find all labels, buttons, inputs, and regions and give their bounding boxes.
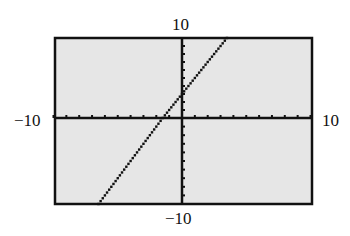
graph-plot xyxy=(0,0,350,236)
x-max-label: 10 xyxy=(322,112,339,129)
y-max-label: 10 xyxy=(172,16,189,33)
y-min-label: −10 xyxy=(165,210,192,227)
x-min-label: −10 xyxy=(14,112,41,129)
